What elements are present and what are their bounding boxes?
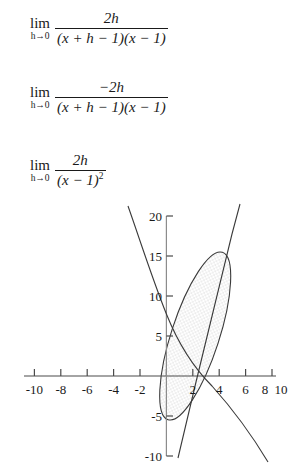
- coordinate-plot: -10 -8 -6 -4 -2 2 4 6 8 10 20 15 10 5 -5…: [0, 200, 290, 470]
- x-tick-label: 8: [262, 382, 269, 397]
- x-tick-label: -6: [82, 382, 93, 397]
- fraction-2: −2h (x + h − 1)(x − 1): [55, 79, 168, 117]
- x-tick-label: -2: [135, 382, 146, 397]
- x-axis: [24, 369, 276, 376]
- y-tick-label: 5: [156, 329, 163, 344]
- y-tick-labels: 20 15 10 5 -5 -10: [145, 209, 162, 464]
- fraction-numerator: 2h: [69, 152, 92, 170]
- lim-text: lim: [30, 16, 50, 31]
- y-tick-label: 15: [149, 249, 162, 264]
- fraction-denominator: (x − 1)2: [55, 171, 106, 189]
- x-tick-labels: -10 -8 -6 -4 -2 2 4 6 8 10: [26, 382, 288, 397]
- y-tick-label: 10: [149, 289, 162, 304]
- lim-subscript: h→0: [31, 32, 49, 42]
- fraction-3: 2h (x − 1)2: [55, 152, 106, 190]
- limit-operator-1: lim h→0: [30, 16, 50, 42]
- limit-expression-3: lim h→0 2h (x − 1)2: [30, 152, 106, 190]
- x-tick-label: -10: [26, 382, 43, 397]
- y-tick-label: -10: [145, 449, 162, 464]
- lim-subscript: h→0: [31, 174, 49, 184]
- x-tick-label: 2: [190, 382, 197, 397]
- fraction-denominator: (x + h − 1)(x − 1): [55, 98, 168, 116]
- fraction-1: 2h (x + h − 1)(x − 1): [55, 10, 168, 48]
- fraction-denominator: (x + h − 1)(x − 1): [55, 29, 168, 47]
- denominator-base: (x − 1): [57, 172, 99, 188]
- lim-subscript: h→0: [31, 101, 49, 111]
- x-tick-label: 4: [216, 382, 223, 397]
- x-tick-label: -8: [55, 382, 66, 397]
- lim-text: lim: [30, 85, 50, 100]
- fraction-numerator: 2h: [100, 10, 123, 28]
- limit-operator-2: lim h→0: [30, 85, 50, 111]
- limit-operator-3: lim h→0: [30, 158, 50, 184]
- limit-expression-1: lim h→0 2h (x + h − 1)(x − 1): [30, 10, 168, 48]
- y-tick-label: 20: [149, 209, 162, 224]
- y-tick-label: -5: [151, 409, 162, 424]
- lim-text: lim: [30, 158, 50, 173]
- fraction-numerator: −2h: [95, 79, 128, 97]
- denominator-exponent: 2: [99, 171, 104, 181]
- x-tick-label: -4: [108, 382, 119, 397]
- limit-expression-2: lim h→0 −2h (x + h − 1)(x − 1): [30, 79, 168, 117]
- x-tick-label: 10: [275, 382, 288, 397]
- x-tick-label: 6: [242, 382, 249, 397]
